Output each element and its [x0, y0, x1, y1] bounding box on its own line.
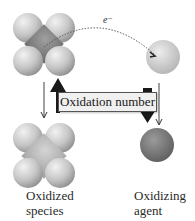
oxidizing-agent-atom [140, 128, 174, 162]
oxidizing-agent-caption-line1: Oxidizing [134, 188, 186, 203]
electron-label: e⁻ [103, 14, 113, 25]
reactant-molecule [13, 13, 75, 76]
oxidized-species-caption-line1: Oxidized [26, 188, 74, 203]
oxidation-number-label: Oxidation number [58, 92, 157, 112]
left-reaction-arrow [41, 82, 47, 118]
oxidized-species-caption-line2: species [26, 203, 64, 218]
oxidized-species-molecule [13, 123, 75, 188]
oxidizing-agent-caption-line2: agent [134, 203, 162, 218]
